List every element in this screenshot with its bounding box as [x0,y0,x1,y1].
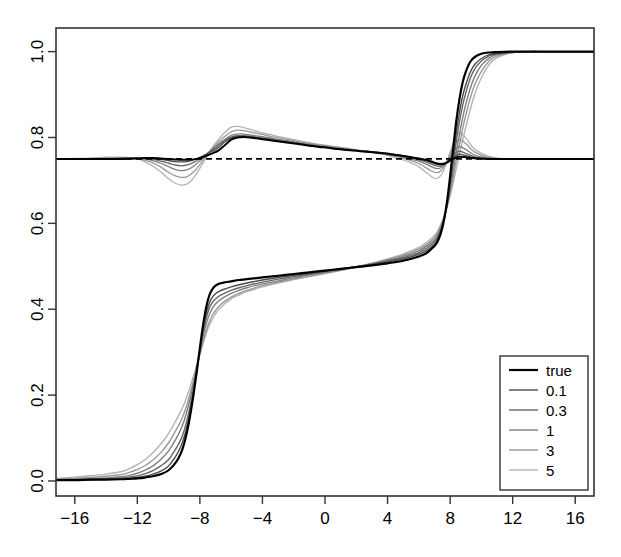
x-tick-label: −16 [60,509,89,528]
chart-legend: true0.10.3135 [500,356,588,490]
legend-label-0.1[interactable]: 0.1 [546,382,567,399]
x-tick-label: 12 [503,509,522,528]
x-tick-label: 16 [566,509,585,528]
legend-label-5[interactable]: 5 [546,462,554,479]
y-tick-label: 0.8 [29,126,48,150]
plot-canvas: −16−12−8−40481216 0.00.20.40.60.81.0 tru… [0,0,621,557]
chart-figure: −16−12−8−40481216 0.00.20.40.60.81.0 tru… [0,0,621,557]
x-tick-label: −8 [190,509,209,528]
x-tick-label: 8 [445,509,454,528]
x-tick-label: −4 [253,509,272,528]
x-tick-label: 4 [383,509,392,528]
y-tick-label: 0.4 [29,297,48,321]
y-tick-label: 1.0 [29,40,48,64]
y-tick-label: 0.0 [29,469,48,493]
legend-label-0.3[interactable]: 0.3 [546,402,567,419]
legend-label-true[interactable]: true [546,362,572,379]
y-tick-label: 0.6 [29,212,48,236]
x-tick-label: 0 [320,509,329,528]
y-tick-label: 0.2 [29,383,48,407]
x-tick-label: −12 [123,509,152,528]
legend-label-1[interactable]: 1 [546,422,554,439]
legend-label-3[interactable]: 3 [546,442,554,459]
